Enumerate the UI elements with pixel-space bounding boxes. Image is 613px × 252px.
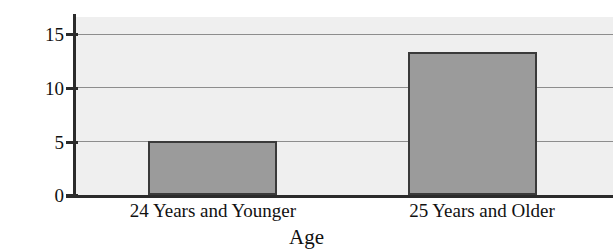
x-category-label-24-years-and-younger: 24 Years and Younger — [93, 199, 333, 223]
x-axis-title: Age — [0, 224, 613, 250]
y-tick-label-15: 15 — [36, 25, 64, 44]
y-tick-mark-5 — [66, 141, 78, 144]
y-tick-label-5: 5 — [36, 133, 64, 152]
y-tick-label-0: 0 — [36, 186, 64, 205]
y-tick-labels: 15 10 5 0 — [36, 0, 64, 252]
x-category-label-25-years-and-older: 25 Years and Older — [362, 199, 602, 223]
gridline-15 — [76, 34, 613, 35]
bar-chart-figure: Accidents (millions) 15 10 5 0 24 Years … — [0, 0, 613, 252]
y-tick-mark-10 — [66, 87, 78, 90]
y-tick-mark-15 — [66, 33, 78, 36]
x-axis-line — [66, 195, 613, 198]
y-tick-mark-0 — [66, 194, 78, 197]
bar-24-years-and-younger[interactable] — [148, 141, 277, 195]
bar-25-years-and-older[interactable] — [408, 52, 537, 195]
y-tick-label-10: 10 — [36, 79, 64, 98]
plot-area — [76, 17, 613, 196]
y-axis-line — [73, 14, 76, 198]
